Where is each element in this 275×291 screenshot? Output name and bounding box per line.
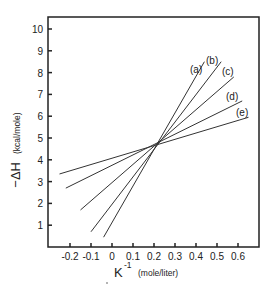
stray-dot xyxy=(106,282,108,284)
series-label-c: (c) xyxy=(222,66,234,77)
series-line-d xyxy=(66,101,242,188)
x-axis-title-sup: -1 xyxy=(124,260,132,270)
y-tick-label: 8 xyxy=(37,68,43,79)
y-axis-title-unit: (kcal/mole) xyxy=(12,112,22,154)
x-tick-label: 0.4 xyxy=(189,251,203,262)
y-tick-label: 5 xyxy=(37,133,43,144)
x-tick-label: 0.2 xyxy=(147,251,161,262)
chart: -0.2-0.100.10.20.30.40.50.6 12345678910 … xyxy=(0,0,275,291)
x-axis-title-main: K xyxy=(114,265,123,280)
x-tick-label: 0.6 xyxy=(231,251,245,262)
data-series: (a)(b)(c)(d)(e) xyxy=(60,55,249,237)
plot-frame xyxy=(48,17,259,247)
y-tick-label: 6 xyxy=(37,111,43,122)
series-label-d: (d) xyxy=(226,91,238,102)
y-tick-label: 3 xyxy=(37,177,43,188)
x-tick-label: 0.5 xyxy=(210,251,224,262)
y-tick-label: 10 xyxy=(32,24,44,35)
x-tick-label: -0.2 xyxy=(61,251,79,262)
x-tick-label: 0 xyxy=(109,251,115,262)
x-axis-ticks: -0.2-0.100.10.20.30.40.50.6 xyxy=(61,243,245,262)
y-axis-title: −ΔH (kcal/mole) xyxy=(8,112,23,187)
y-axis-ticks: 12345678910 xyxy=(32,24,52,231)
y-tick-label: 7 xyxy=(37,89,43,100)
series-line-b xyxy=(91,62,221,232)
x-tick-label: -0.1 xyxy=(82,251,100,262)
x-tick-label: 0.3 xyxy=(168,251,182,262)
y-axis-title-main: −ΔH xyxy=(8,162,23,188)
y-tick-label: 1 xyxy=(37,220,43,231)
x-axis-title-unit: (mole/liter) xyxy=(138,268,178,278)
x-axis-title: K -1 (mole/liter) xyxy=(114,260,178,280)
series-label-e: (e) xyxy=(236,107,248,118)
y-tick-label: 2 xyxy=(37,198,43,209)
y-tick-label: 9 xyxy=(37,46,43,57)
y-tick-label: 4 xyxy=(37,155,43,166)
series-label-a: (a) xyxy=(190,64,202,75)
series-label-b: (b) xyxy=(206,55,218,66)
series-line-e xyxy=(60,117,249,174)
